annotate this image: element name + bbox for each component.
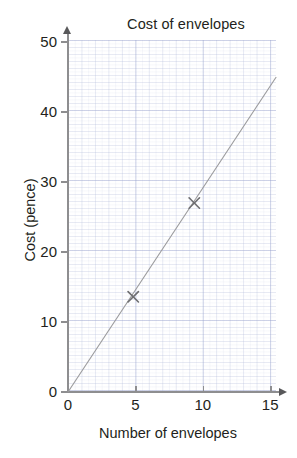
y-axis-line	[67, 32, 69, 392]
x-axis-line	[68, 391, 280, 393]
y-tick-20	[61, 251, 68, 252]
y-axis-arrow-icon	[63, 26, 71, 34]
x-tick-label-15: 15	[255, 397, 285, 412]
plot-area	[68, 40, 276, 392]
x-tick-15	[270, 386, 271, 393]
chart-container: Cost of envelopes 50 40 30 20 10 0 0 5 1…	[0, 0, 297, 458]
y-tick-30	[61, 181, 68, 182]
x-tick-0	[68, 386, 69, 393]
x-axis-arrow-icon	[279, 388, 287, 396]
y-tick-label-40: 40	[17, 104, 57, 119]
x-tick-10	[203, 386, 204, 393]
x-tick-5	[135, 386, 136, 393]
chart-title: Cost of envelopes	[86, 16, 286, 32]
y-tick-50	[61, 41, 68, 42]
y-tick-label-0: 0	[17, 384, 57, 399]
y-tick-10	[61, 321, 68, 322]
y-axis-title: Cost (pence)	[22, 120, 38, 320]
y-tick-label-50: 50	[17, 34, 57, 49]
x-tick-label-0: 0	[53, 397, 83, 412]
y-tick-40	[61, 111, 68, 112]
x-tick-label-5: 5	[120, 397, 150, 412]
y-tick-0	[61, 391, 68, 392]
x-tick-label-10: 10	[188, 397, 218, 412]
x-axis-title: Number of envelopes	[48, 425, 288, 441]
